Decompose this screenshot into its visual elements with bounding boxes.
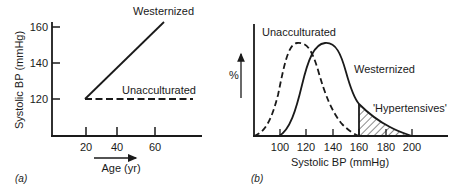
a-y-axis-label: Systolic BP (mmHg) [13,31,25,129]
b-xtick-label-100: 100 [271,141,289,153]
a-xtick-label-20: 20 [80,141,92,153]
b-series-unacculturated [254,43,359,136]
b-label-westernized: Westernized [354,63,415,75]
a-ytick-label-140: 140 [30,57,48,69]
b-xtick-label-140: 140 [324,141,342,153]
b-y-axis-label: % [229,69,239,81]
b-series-westernized [279,43,412,136]
a-xtick-label-40: 40 [111,141,123,153]
chart-b: 100 120 140 160 180 200 Systolic BP (mmH… [229,24,448,184]
b-xtick-label-200: 200 [403,141,421,153]
b-xtick-label-160: 160 [350,141,368,153]
a-label-unacculturated: Unacculturated [122,84,196,96]
panel-label-b: (b) [251,173,263,184]
chart-a: 160 140 120 20 40 60 Age (yr) Systolic B… [13,5,202,184]
a-label-westernized: Westernized [133,5,194,17]
b-label-unacculturated: Unacculturated [262,26,336,38]
b-xtick-label-180: 180 [377,141,395,153]
a-xtick-label-60: 60 [149,141,161,153]
a-x-axis-label: Age (yr) [101,162,140,174]
b-label-hypertensives: 'Hypertensives' [373,102,447,114]
figure: 160 140 120 20 40 60 Age (yr) Systolic B… [0,0,460,193]
a-ytick-label-120: 120 [30,93,48,105]
b-xtick-label-120: 120 [297,141,315,153]
a-ytick-label-160: 160 [30,21,48,33]
panel-label-a: (a) [15,173,27,184]
b-x-axis-label: Systolic BP (mmHg) [291,156,389,168]
